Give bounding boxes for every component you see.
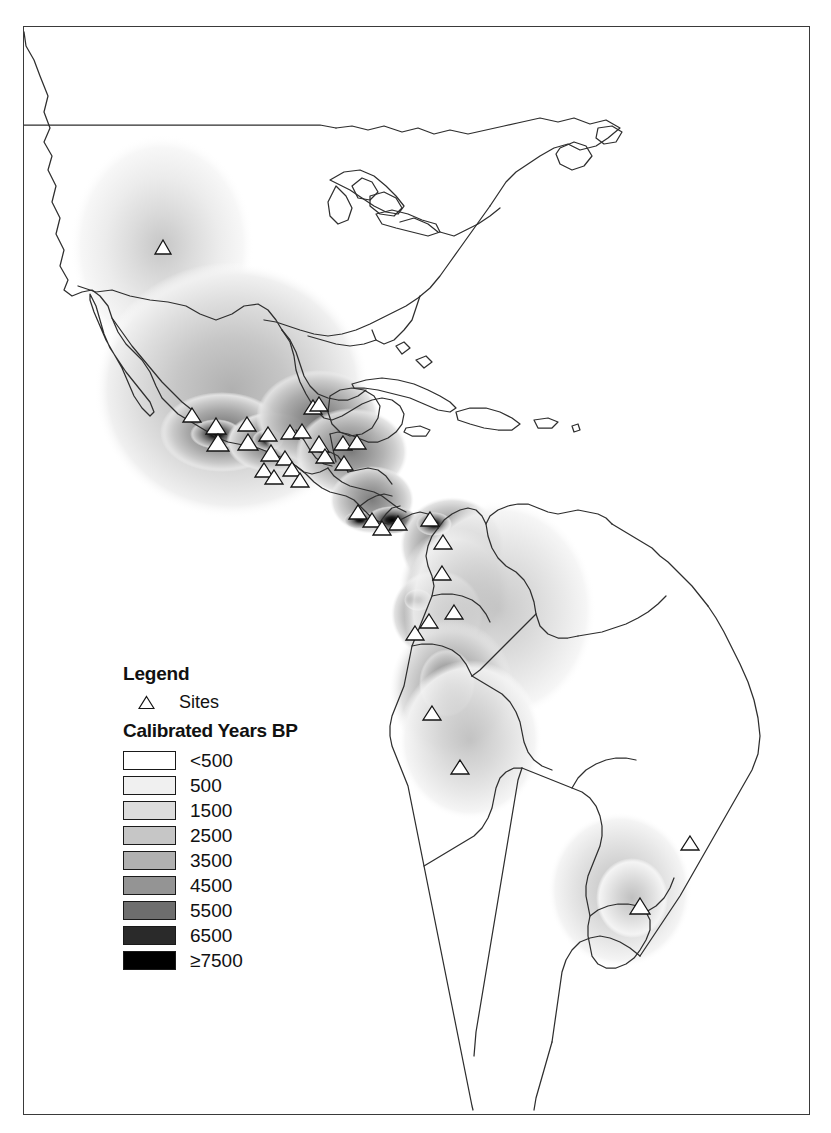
legend-class-row: 2500: [123, 823, 338, 848]
legend-color-swatch: [123, 776, 176, 795]
legend-class-row: 500: [123, 773, 338, 798]
triangle-marker-icon: [123, 695, 169, 710]
legend-subtitle: Calibrated Years BP: [123, 720, 338, 742]
legend-color-swatch: [123, 851, 176, 870]
legend-class-label: 4500: [176, 875, 232, 896]
legend-class-row: 6500: [123, 923, 338, 948]
legend-color-swatch: [123, 801, 176, 820]
legend-class-row: <500: [123, 748, 338, 773]
legend-class-row: 1500: [123, 798, 338, 823]
legend-sites-label: Sites: [169, 692, 219, 712]
legend-class-label: 5500: [176, 900, 232, 921]
legend-class-list: <500500150025003500450055006500≥7500: [123, 748, 338, 973]
legend-color-swatch: [123, 876, 176, 895]
legend-class-label: <500: [176, 750, 233, 771]
legend-class-label: 500: [176, 775, 222, 796]
legend-class-row: 4500: [123, 873, 338, 898]
legend-class-row: 3500: [123, 848, 338, 873]
legend-color-swatch: [123, 751, 176, 770]
legend-color-swatch: [123, 926, 176, 945]
legend-class-label: 1500: [176, 800, 232, 821]
legend-title: Legend: [123, 663, 338, 685]
legend-sites-entry: Sites: [123, 690, 338, 714]
legend-color-swatch: [123, 951, 176, 970]
map-figure: Legend Sites Calibrated Years BP <500500…: [0, 0, 831, 1133]
legend-class-label: 2500: [176, 825, 232, 846]
map-frame: Legend Sites Calibrated Years BP <500500…: [23, 26, 810, 1115]
legend-class-label: 6500: [176, 925, 232, 946]
map-legend: Legend Sites Calibrated Years BP <500500…: [123, 663, 338, 973]
legend-color-swatch: [123, 901, 176, 920]
legend-class-row: ≥7500: [123, 948, 338, 973]
legend-class-row: 5500: [123, 898, 338, 923]
legend-class-label: 3500: [176, 850, 232, 871]
legend-color-swatch: [123, 826, 176, 845]
legend-class-label: ≥7500: [176, 950, 243, 971]
